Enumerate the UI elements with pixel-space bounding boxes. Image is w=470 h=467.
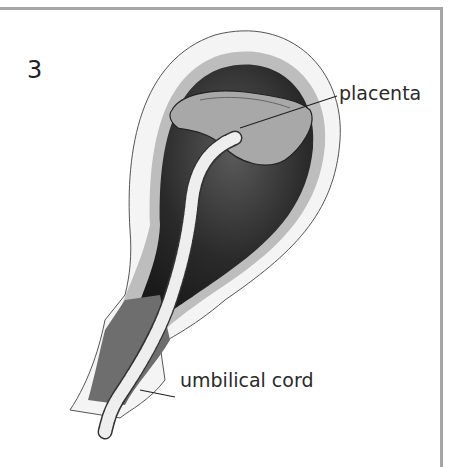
placenta-label: placenta [339,82,421,104]
umbilical-cord-label: umbilical cord [180,369,313,391]
